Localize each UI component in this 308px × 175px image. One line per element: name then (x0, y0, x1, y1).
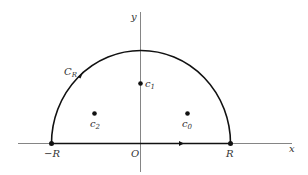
origin-label: O (131, 148, 139, 159)
contour-arc (52, 50, 231, 143)
point-c1 (138, 81, 143, 86)
c1-label: c1 (145, 78, 155, 91)
x-axis-label: x (289, 143, 295, 154)
left-endpoint (49, 141, 54, 146)
c0-label: c0 (182, 118, 193, 131)
left-endpoint-label: −R (44, 148, 60, 159)
contour-label: CR (64, 66, 78, 79)
point-c2 (92, 111, 97, 116)
y-axis-label: y (130, 11, 137, 22)
c2-label: c2 (90, 118, 101, 131)
arc-arrow-icon (78, 71, 84, 79)
right-endpoint-label: R (225, 148, 234, 159)
segment-arrow-icon (179, 141, 184, 146)
point-c0 (185, 111, 190, 116)
right-endpoint (228, 141, 233, 146)
contour-diagram: y x O −R R CR c1 c2 c0 (0, 0, 308, 175)
